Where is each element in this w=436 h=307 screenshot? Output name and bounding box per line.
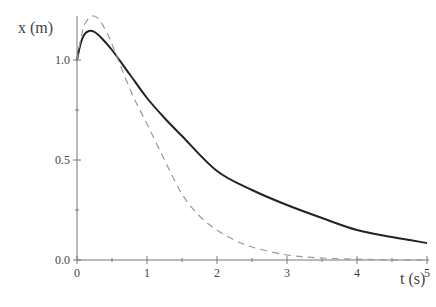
- axes: 0123450.00.51.0: [55, 16, 430, 280]
- x-tick-label: 3: [284, 266, 290, 280]
- x-tick-label: 4: [354, 266, 360, 280]
- y-tick-label: 1.0: [55, 53, 70, 67]
- series-dashed: [77, 16, 427, 260]
- x-axis-label: t (s): [400, 270, 425, 288]
- chart: 0123450.00.51.0 x (m) t (s): [0, 0, 436, 307]
- series-solid: [77, 31, 427, 243]
- series: [77, 16, 427, 260]
- x-tick-label: 1: [144, 266, 150, 280]
- y-tick-label: 0.5: [55, 153, 70, 167]
- y-axis-label: x (m): [18, 19, 53, 37]
- x-tick-label: 0: [74, 266, 80, 280]
- y-tick-label: 0.0: [55, 253, 70, 267]
- x-tick-label: 2: [214, 266, 220, 280]
